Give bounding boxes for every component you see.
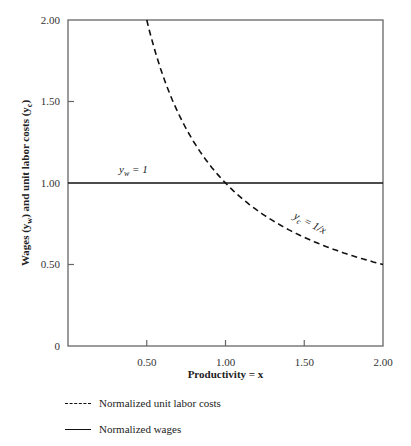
legend-label: Normalized wages	[99, 423, 181, 435]
chart: 2.00 1.50 1.00 0.50 0 0.50 1.00 1.50 2.0…	[0, 0, 411, 446]
x-ticks	[147, 340, 305, 346]
legend-label: Normalized unit labor costs	[99, 397, 221, 409]
y-tick-1: 1.00	[41, 177, 61, 189]
x-tick-1: 1.00	[216, 356, 236, 368]
y-tick-1.5: 1.50	[41, 95, 61, 107]
x-axis-label: Productivity = x	[188, 368, 264, 380]
y-tick-0.5: 0.50	[41, 258, 61, 270]
y-axis-label: Wages (yw) and unit labor costs (yc)	[19, 100, 34, 267]
x-tick-0.5: 0.50	[137, 356, 157, 368]
unit-labor-cost-curve	[147, 20, 383, 265]
annotation-yc: yc = 1/x	[290, 209, 329, 239]
y-tick-2: 2.00	[41, 14, 61, 26]
legend-item-wages: Normalized wages	[65, 423, 181, 435]
dashed-line-swatch-icon	[65, 403, 91, 404]
legend-item-unit-labor-costs: Normalized unit labor costs	[65, 397, 221, 409]
x-tick-2: 2.00	[373, 356, 393, 368]
x-tick-1.5: 1.50	[295, 356, 315, 368]
solid-line-swatch-icon	[65, 429, 91, 430]
annotation-yw: yw = 1	[118, 163, 148, 178]
y-tick-0: 0	[55, 340, 61, 352]
